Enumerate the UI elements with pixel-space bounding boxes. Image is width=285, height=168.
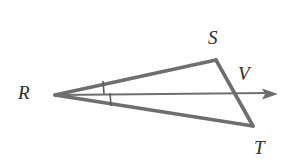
lower-angle-tick [110,93,111,106]
segment-RS [55,60,216,95]
vertex-label-R: R [18,83,30,102]
vertex-label-V: V [238,64,250,83]
upper-angle-tick [103,81,104,94]
diagram-canvas: R S V T [0,0,285,168]
geometry-figure [0,0,285,168]
vertex-label-S: S [208,28,218,47]
segment-RT [55,95,253,126]
vertex-label-T: T [254,138,265,157]
